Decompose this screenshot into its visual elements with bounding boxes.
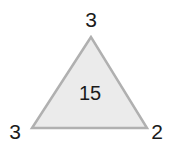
vertex-label-bottom-left: 3 [9,121,21,142]
vertex-label-top: 3 [85,9,97,30]
vertex-label-bottom-right: 2 [151,121,163,142]
center-value: 15 [79,83,101,103]
